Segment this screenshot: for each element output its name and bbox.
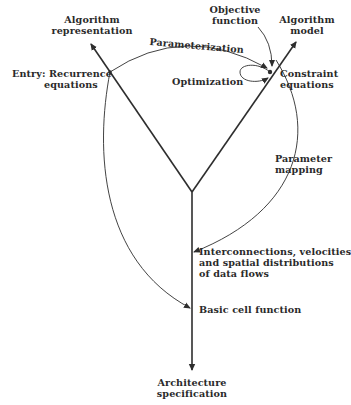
label-line: Entry: Recurrence [8, 68, 112, 79]
label-constraint-equations: Constraint equations [280, 68, 338, 90]
label-line: of data flows [199, 268, 351, 279]
label-basic-cell-function: Basic cell function [199, 304, 301, 315]
label-line: Architecture [150, 377, 234, 388]
label-line: and spatial distributions [199, 257, 351, 268]
label-line: function [200, 15, 270, 26]
label-line: Constraint [280, 68, 338, 79]
arm-to-algorithm-representation [91, 44, 192, 192]
label-entry-recurrence-equations: Entry: Recurrence equations [8, 68, 112, 90]
label-parameter-mapping: Parameter mapping [275, 153, 332, 175]
label-line: mapping [275, 164, 332, 175]
label-line: Algorithm [48, 14, 136, 25]
label-line: Parameter [275, 153, 332, 164]
label-line: equations [8, 79, 112, 90]
label-algorithm-model: Algorithm model [272, 14, 342, 36]
label-line: Objective [200, 4, 270, 15]
label-algorithm-representation: Algorithm representation [48, 14, 136, 36]
label-architecture-specification: Architecture specification [150, 377, 234, 399]
label-optimization: Optimization [172, 76, 243, 87]
label-line: model [272, 25, 342, 36]
label-line: equations [280, 79, 338, 90]
label-objective-function: Objective function [200, 4, 270, 26]
objective-function-arrow [258, 27, 272, 66]
entry-to-basic-cell-arc [103, 72, 190, 308]
label-line: Interconnections, velocities [199, 246, 351, 257]
constraint-node-dot [268, 70, 272, 74]
label-line: representation [48, 25, 136, 36]
label-line: specification [150, 388, 234, 399]
label-interconnections: Interconnections, velocities and spatial… [199, 246, 351, 279]
label-line: Algorithm [272, 14, 342, 25]
